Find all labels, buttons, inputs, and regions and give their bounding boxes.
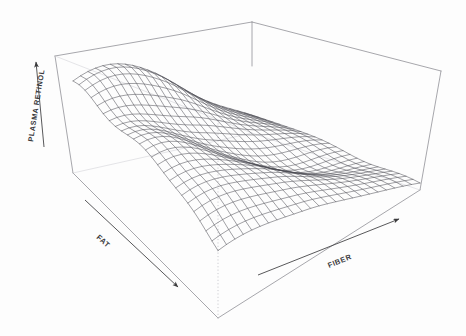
fat-axis-arrow (85, 200, 178, 287)
plasma-retinol-axis: PLASMA RETINOL (26, 62, 46, 147)
surface-plot-figure: PLASMA RETINOL FAT FIBER (0, 0, 466, 336)
plot-canvas: PLASMA RETINOL FAT FIBER (0, 0, 466, 336)
box-top-back-left-edge (55, 22, 252, 56)
box-right-vertical-edge (420, 71, 441, 190)
plasma-retinol-axis-label: PLASMA RETINOL (26, 69, 46, 143)
fat-axis: FAT (85, 200, 178, 287)
fiber-axis: FIBER (258, 219, 399, 275)
box-bottom-front-left-edge (73, 173, 218, 318)
box-left-vertical-edge (55, 56, 73, 173)
fat-axis-label: FAT (95, 233, 112, 250)
fiber-axis-label: FIBER (326, 252, 353, 270)
box-floor-hidden-edges (55, 56, 420, 190)
box-top-back-right-edge (252, 22, 441, 71)
floor-back-left-edge (73, 133, 252, 173)
plot-box-frame (55, 22, 441, 318)
